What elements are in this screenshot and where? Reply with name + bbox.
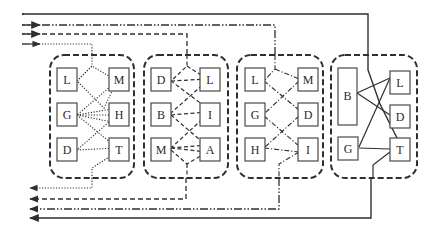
svg-text:L: L — [251, 73, 258, 87]
svg-text:D: D — [396, 110, 405, 124]
svg-text:M: M — [156, 143, 167, 157]
group-3-node-M[interactable]: M — [298, 68, 318, 91]
svg-text:D: D — [63, 143, 72, 157]
group-1-node-H[interactable]: H — [109, 103, 129, 126]
group-1-node-T[interactable]: T — [109, 138, 129, 161]
group-1: L G D M H T — [50, 55, 134, 178]
svg-text:T: T — [396, 143, 404, 157]
group-2-node-B[interactable]: B — [151, 103, 171, 126]
flow-dotted-out — [30, 178, 92, 188]
svg-text:M: M — [303, 73, 314, 87]
group-2-node-M[interactable]: M — [151, 138, 171, 161]
svg-text:L: L — [63, 73, 70, 87]
svg-text:T: T — [115, 143, 123, 157]
svg-text:B: B — [157, 108, 165, 122]
group-1-node-M[interactable]: M — [109, 68, 129, 91]
group-2: D B M L I A — [144, 55, 228, 178]
workflow-diagram: L G D M H T — [0, 0, 438, 236]
svg-text:D: D — [157, 73, 166, 87]
svg-text:L: L — [206, 73, 213, 87]
svg-text:I: I — [306, 143, 310, 157]
group-3-node-H[interactable]: H — [245, 138, 265, 161]
flow-solid-out — [30, 178, 371, 218]
svg-text:D: D — [304, 108, 313, 122]
svg-text:B: B — [343, 89, 351, 103]
group-4: B G L D T — [331, 55, 417, 178]
svg-text:I: I — [208, 108, 212, 122]
svg-text:G: G — [63, 108, 72, 122]
group-3-links — [264, 55, 299, 178]
group-3-node-I[interactable]: I — [298, 138, 318, 161]
svg-text:H: H — [115, 108, 124, 122]
flow-dashdotdot-in — [42, 25, 275, 55]
group-4-node-G[interactable]: G — [338, 137, 358, 160]
group-2-node-I[interactable]: I — [200, 103, 220, 126]
group-1-node-G[interactable]: G — [57, 103, 77, 126]
svg-text:G: G — [344, 142, 353, 156]
group-2-node-A[interactable]: A — [200, 138, 220, 161]
flow-dotted-in — [42, 44, 92, 55]
svg-text:A: A — [206, 143, 215, 157]
group-3: L G H M D I — [237, 55, 323, 178]
group-1-node-D[interactable]: D — [57, 138, 77, 161]
svg-text:G: G — [251, 108, 260, 122]
group-4-node-B[interactable]: B — [338, 68, 357, 125]
group-4-node-D[interactable]: D — [390, 105, 410, 128]
flow-dashdotdot-out — [30, 178, 279, 209]
group-3-node-D[interactable]: D — [298, 103, 318, 126]
group-3-node-L[interactable]: L — [245, 68, 265, 91]
group-1-node-L[interactable]: L — [57, 68, 77, 91]
svg-text:L: L — [396, 76, 403, 90]
group-4-node-L[interactable]: L — [390, 71, 410, 94]
flow-dashed-in — [42, 34, 187, 55]
group-3-node-G[interactable]: G — [245, 103, 265, 126]
svg-text:H: H — [251, 143, 260, 157]
svg-text:M: M — [114, 73, 125, 87]
group-4-node-T[interactable]: T — [390, 138, 410, 161]
group-2-node-D[interactable]: D — [151, 68, 171, 91]
output-flows — [30, 178, 371, 218]
group-2-node-L[interactable]: L — [200, 68, 220, 91]
group-4-links — [357, 78, 390, 178]
